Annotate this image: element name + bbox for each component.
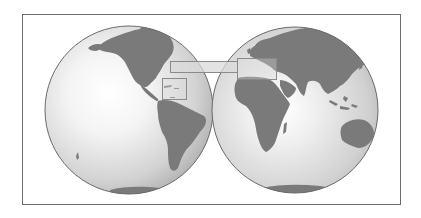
caribbean-box: [163, 79, 187, 100]
connector-band: [171, 62, 238, 73]
mediterranean-box: [238, 59, 277, 80]
map-figure: [0, 0, 421, 218]
world-map-svg: [0, 0, 421, 218]
